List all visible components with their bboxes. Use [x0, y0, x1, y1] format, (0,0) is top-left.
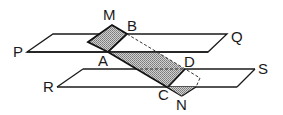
plane-rs-right-edge: [237, 69, 255, 87]
diagram-canvas: P Q R S M B A D C N: [0, 0, 283, 115]
label-a: A: [98, 52, 108, 69]
label-n: N: [176, 96, 187, 113]
label-q: Q: [231, 28, 243, 45]
label-m: M: [103, 6, 116, 23]
hidden-edge-b-to-d: [127, 34, 157, 52]
parallel-planes-diagram: P Q R S M B A D C N: [0, 0, 283, 115]
label-b: B: [127, 17, 137, 34]
plane-rs-left-edge: [57, 69, 83, 87]
label-p: P: [13, 43, 23, 60]
label-d: D: [184, 53, 195, 70]
hidden-edge-to-n: [196, 78, 200, 87]
label-c: C: [158, 86, 169, 103]
plane-pq: [27, 34, 227, 52]
shaded-region-bottom: [168, 87, 196, 96]
label-r: R: [43, 78, 54, 95]
label-s: S: [258, 60, 268, 77]
